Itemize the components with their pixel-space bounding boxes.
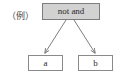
node-root-not-and[interactable]: not and [42, 3, 100, 20]
example-caption: （例） [4, 9, 36, 23]
edge-root-to-b [74, 20, 95, 53]
node-leaf-a[interactable]: a [28, 55, 63, 71]
node-leaf-b[interactable]: b [78, 55, 113, 71]
edge-root-to-a [45, 20, 66, 53]
diagram-canvas: （例） not and a b [0, 0, 126, 75]
